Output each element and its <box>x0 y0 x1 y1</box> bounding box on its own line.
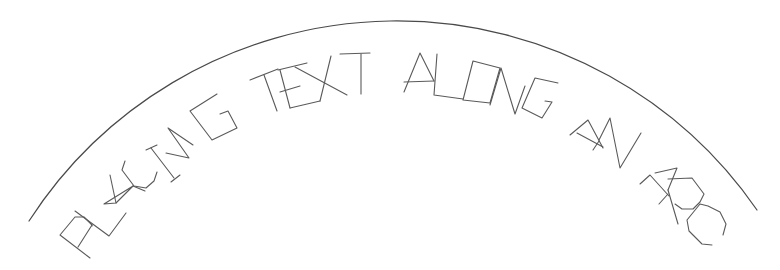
letter-l-placing <box>75 211 126 236</box>
letter-stroke <box>434 54 463 99</box>
letter-stroke <box>264 75 277 111</box>
letter-stroke <box>404 53 434 92</box>
letter-stroke <box>60 217 92 258</box>
letter-c-arc <box>687 204 726 245</box>
letter-stroke <box>122 161 157 188</box>
drawing-canvas <box>0 0 780 270</box>
letter-stroke <box>290 101 320 108</box>
letter-stroke <box>340 53 370 54</box>
letter-c-placing <box>122 161 157 188</box>
letter-a-arc <box>640 168 677 204</box>
letter-stroke <box>522 78 558 118</box>
letter-g-placing <box>190 94 237 140</box>
letter-t-text <box>250 69 278 111</box>
guide-arc <box>29 21 757 221</box>
letter-stroke <box>659 194 668 204</box>
letter-n-along <box>490 68 525 114</box>
letter-stroke <box>190 94 237 140</box>
letter-a-an <box>570 120 603 150</box>
letter-stroke <box>75 211 126 236</box>
letter-stroke <box>280 86 300 92</box>
letter-n-placing <box>166 128 193 158</box>
letter-stroke <box>295 67 347 95</box>
letter-a-placing <box>104 175 145 204</box>
letter-o-along <box>463 61 500 103</box>
letter-stroke <box>640 175 669 196</box>
letter-g-along <box>522 78 558 118</box>
letter-stroke <box>166 128 193 158</box>
letter-stroke <box>151 148 174 178</box>
letter-stroke <box>490 68 525 114</box>
letter-stroke <box>463 61 500 103</box>
letter-stroke <box>687 204 726 245</box>
letter-t-text <box>340 53 370 94</box>
letter-stroke <box>278 63 307 70</box>
letter-p-placing <box>60 217 92 258</box>
letter-stroke <box>668 178 704 209</box>
letter-a-along <box>404 53 434 92</box>
arc-text-group <box>60 53 726 258</box>
letter-stroke <box>599 118 641 168</box>
letter-r-arc <box>668 178 704 224</box>
letter-stroke <box>668 190 678 224</box>
letter-l-along <box>434 54 463 99</box>
letter-stroke <box>104 186 133 204</box>
letter-stroke <box>320 56 331 101</box>
letter-x-text <box>295 56 347 101</box>
letter-i-placing <box>146 145 180 182</box>
letter-n-an <box>599 118 641 168</box>
